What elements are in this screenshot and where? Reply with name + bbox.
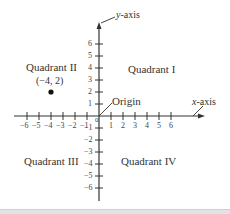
x-tick-label: 5 [157,122,161,130]
x-tick-label: 3 [133,122,137,130]
y-tick-label: 6 [88,40,92,48]
quadrant-i-label: Quadrant I [128,64,175,75]
x-axis-label: x-axis [192,97,216,107]
y-axis-arrow-icon [97,22,102,29]
y-tick-label: −4 [84,160,93,168]
y-tick-label: −2 [84,136,93,144]
y-tick-label: 4 [88,64,92,72]
y-tick-label: −6 [84,184,93,192]
x-axis-arrow-icon [198,114,205,119]
y-tick-label: −1 [84,124,93,132]
quadrant-ii-label: Quadrant II [26,62,77,73]
x-tick-label: −3 [56,122,65,130]
coordinate-plane-figure: y-axis x-axis Origin Quadrant II Quadran… [0,0,230,214]
y-tick-label: 1 [88,100,92,108]
x-tick-label: 6 [169,122,173,130]
y-tick-label: 5 [88,52,92,60]
x-tick-label: 1 [109,122,113,130]
y-tick-label: 2 [88,88,92,96]
bottom-divider [0,209,230,214]
quadrant-iii-label: Quadrant III [24,156,79,167]
y-axis-label: y-axis [116,10,140,20]
y-axis-leader-line [101,17,115,23]
axes-graphic [0,0,230,214]
y-tick-label: −3 [84,148,93,156]
y-tick-label: −5 [84,172,93,180]
x-tick-label: −5 [32,122,41,130]
x-tick-label: 4 [145,122,149,130]
origin-label: Origin [112,96,141,107]
quadrant-iv-label: Quadrant IV [121,156,176,167]
x-tick-label: −6 [20,122,29,130]
x-tick-label: 2 [121,122,125,130]
point-marker [48,89,53,94]
x-tick-label: −4 [44,122,53,130]
origin-tick-label: 0 [95,117,99,124]
origin-leader-line [99,103,112,116]
x-tick-label: −2 [68,122,77,130]
point-label: (−4, 2) [36,76,63,86]
y-tick-label: 3 [88,76,92,84]
